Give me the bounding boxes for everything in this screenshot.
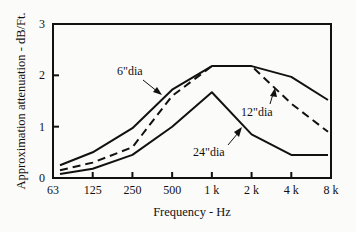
x-tick-label: 250 [123, 183, 141, 197]
y-tick-label: 3 [39, 17, 45, 31]
attenuation-chart: 0123 631252505001 k2 k4 k8 k 6"dia 12"di… [0, 0, 356, 232]
y-tick-label: 1 [39, 120, 45, 134]
x-tick-label: 1 k [204, 183, 219, 197]
y-axis-title: Approximation attenuation - dB/Ft. [14, 12, 28, 189]
series-line-2 [60, 92, 328, 174]
x-axis: 631252505001 k2 k4 k8 k [47, 172, 339, 197]
x-tick-label: 500 [163, 183, 181, 197]
x-tick-label: 125 [84, 183, 102, 197]
x-tick-label: 8 k [324, 183, 339, 197]
y-axis: 0123 [39, 17, 59, 185]
svg-text:24"dia: 24"dia [193, 145, 225, 159]
svg-text:12"dia: 12"dia [241, 105, 273, 119]
annotation-24in: 24"dia [193, 127, 242, 159]
y-tick-label: 0 [39, 171, 45, 185]
x-axis-title: Frequency - Hz [153, 205, 231, 219]
annotation-6in: 6"dia [117, 64, 162, 95]
x-tick-label: 2 k [244, 183, 259, 197]
x-tick-label: 63 [47, 183, 59, 197]
annotation-12in: 12"dia [241, 88, 277, 119]
x-tick-label: 4 k [284, 183, 299, 197]
svg-text:6"dia: 6"dia [117, 64, 143, 78]
y-tick-label: 2 [39, 68, 45, 82]
